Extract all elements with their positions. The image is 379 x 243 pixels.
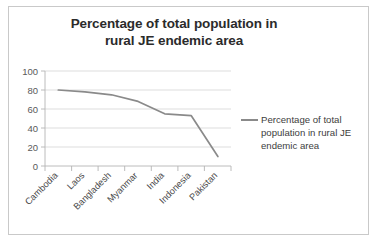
ytick-label-60: 60 (27, 104, 38, 115)
data-series-line (58, 90, 218, 157)
gridlines (45, 71, 231, 147)
y-axis-labels: 100 80 60 40 20 0 (22, 66, 38, 172)
chart-container: Percentage of total population in rural … (8, 6, 369, 235)
xtick-label-pakistan: Pakistan (187, 170, 219, 202)
ytick-label-20: 20 (27, 142, 38, 153)
x-axis-labels: Cambodia Laos Bangladesh Myanmar India I… (23, 170, 219, 212)
legend-line-swatch-icon (241, 119, 258, 121)
x-axis-ticks (45, 166, 231, 171)
ytick-label-40: 40 (27, 123, 38, 134)
xtick-label-laos: Laos (65, 170, 86, 191)
ytick-label-100: 100 (22, 66, 38, 77)
ytick-label-80: 80 (27, 85, 38, 96)
legend-item-label: Percentage of total population in rural … (261, 113, 357, 153)
ytick-label-0: 0 (33, 161, 38, 172)
xtick-label-india: India (145, 170, 167, 192)
xtick-label-cambodia: Cambodia (23, 170, 60, 207)
chart-legend: Percentage of total population in rural … (241, 113, 361, 153)
y-axis-ticks (41, 71, 45, 166)
legend-item: Percentage of total population in rural … (241, 113, 361, 153)
